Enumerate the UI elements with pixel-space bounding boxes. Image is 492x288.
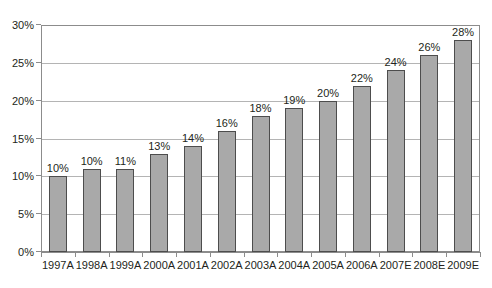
bar bbox=[252, 116, 270, 252]
bar-value-label: 22% bbox=[351, 72, 373, 84]
bar-chart: 0%5%10%15%20%25%30% 10%10%11%13%14%16%18… bbox=[0, 0, 492, 288]
bar-value-label: 28% bbox=[452, 26, 474, 38]
bar-value-label: 26% bbox=[418, 41, 440, 53]
y-axis-tick bbox=[36, 213, 41, 214]
y-axis-tick bbox=[36, 62, 41, 63]
bar bbox=[353, 86, 371, 252]
gridline bbox=[42, 63, 479, 64]
bar bbox=[49, 176, 67, 252]
x-axis-category-label: 1999A bbox=[110, 259, 142, 272]
x-axis-line bbox=[41, 252, 481, 253]
y-axis-tick-label: 10% bbox=[1, 171, 34, 182]
bar bbox=[387, 70, 405, 252]
x-axis-category-label: 2002A bbox=[211, 259, 243, 272]
y-axis-tick bbox=[36, 175, 41, 176]
x-axis-tick bbox=[41, 252, 42, 257]
bar-value-label: 19% bbox=[283, 94, 305, 106]
x-axis-tick bbox=[446, 252, 447, 257]
bar-value-label: 13% bbox=[148, 140, 170, 152]
y-axis-line bbox=[41, 25, 42, 253]
x-axis-category-label: 1997A bbox=[42, 259, 74, 272]
x-axis-tick bbox=[75, 252, 76, 257]
x-axis-tick bbox=[379, 252, 380, 257]
x-axis-category-label: 2009E bbox=[447, 259, 479, 272]
bar-value-label: 11% bbox=[115, 155, 136, 167]
bar bbox=[83, 169, 101, 252]
y-axis-tick bbox=[36, 100, 41, 101]
bar bbox=[420, 55, 438, 252]
bar-value-label: 14% bbox=[182, 132, 204, 144]
bar-value-label: 10% bbox=[81, 155, 103, 167]
bar bbox=[116, 169, 134, 252]
bar-value-label: 24% bbox=[385, 56, 407, 68]
x-axis-category-label: 2003A bbox=[245, 259, 277, 272]
x-axis-category-label: 2006A bbox=[346, 259, 378, 272]
bar-value-label: 18% bbox=[249, 102, 271, 114]
x-axis-tick bbox=[311, 252, 312, 257]
x-axis-category-label: 2008E bbox=[413, 259, 445, 272]
y-axis-tick-label: 15% bbox=[1, 134, 34, 145]
y-axis-tick bbox=[36, 138, 41, 139]
bar-value-label: 16% bbox=[216, 117, 238, 129]
y-axis-tick-label: 5% bbox=[1, 209, 34, 220]
x-axis-tick bbox=[244, 252, 245, 257]
x-axis-category-label: 2007E bbox=[380, 259, 412, 272]
bar bbox=[285, 108, 303, 252]
bar bbox=[319, 101, 337, 252]
bar-value-label: 20% bbox=[317, 87, 339, 99]
x-axis-category-label: 1998A bbox=[76, 259, 108, 272]
y-axis-tick-label: 20% bbox=[1, 96, 34, 107]
bar bbox=[184, 146, 202, 252]
bar-value-label: 10% bbox=[47, 162, 69, 174]
bar bbox=[150, 154, 168, 252]
x-axis-tick bbox=[176, 252, 177, 257]
x-axis-category-label: 2005A bbox=[312, 259, 344, 272]
bar bbox=[218, 131, 236, 252]
x-axis-category-label: 2001A bbox=[177, 259, 209, 272]
x-axis-tick bbox=[277, 252, 278, 257]
y-axis-tick bbox=[36, 24, 41, 25]
x-axis-tick bbox=[210, 252, 211, 257]
x-axis-tick bbox=[480, 252, 481, 257]
x-axis-tick bbox=[345, 252, 346, 257]
x-axis-tick bbox=[412, 252, 413, 257]
x-axis-tick bbox=[142, 252, 143, 257]
bar bbox=[454, 40, 472, 252]
y-axis-tick-label: 30% bbox=[1, 20, 34, 31]
y-axis-tick-label: 0% bbox=[1, 247, 34, 258]
x-axis-tick bbox=[109, 252, 110, 257]
x-axis-category-label: 2000A bbox=[143, 259, 175, 272]
y-axis-tick-label: 25% bbox=[1, 58, 34, 69]
x-axis-category-label: 2004A bbox=[278, 259, 310, 272]
